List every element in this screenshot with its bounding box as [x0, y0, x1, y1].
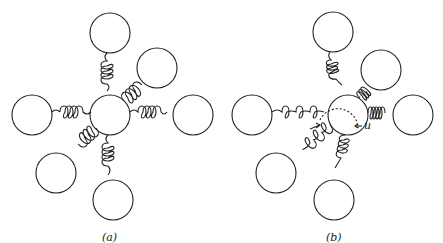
atom-left — [12, 95, 52, 135]
spring-right-compressed — [368, 107, 385, 119]
panel-b-label: (b) — [326, 231, 342, 243]
displacement-label: u — [364, 119, 371, 132]
panel-b — [232, 12, 433, 220]
atom-top-right — [361, 50, 401, 90]
spring-bottom-left-stretched — [298, 120, 335, 155]
atom-top — [90, 13, 130, 53]
spring-left-stretched — [272, 106, 324, 118]
spring-right — [130, 106, 167, 118]
atom-bottom-left — [36, 153, 76, 193]
central-atom-displaced — [328, 95, 368, 135]
panel-a — [12, 13, 213, 220]
atom-right — [393, 95, 433, 135]
spring-bottom-left — [74, 123, 101, 149]
atom-top — [313, 12, 353, 52]
atom-left — [232, 95, 272, 135]
atom-bottom-left — [256, 153, 296, 193]
spring-bottom-bent — [335, 135, 349, 168]
spring-left — [52, 106, 91, 118]
spring-top-right-compressed — [356, 86, 372, 102]
panel-a-label: (a) — [102, 231, 117, 243]
spring-top-bent — [326, 52, 342, 85]
spring-lattice-diagram: u (a) (b) — [0, 0, 443, 243]
spring-bottom — [102, 135, 114, 175]
spring-top — [101, 53, 113, 91]
atom-top-right — [137, 48, 177, 88]
atom-bottom — [314, 180, 354, 220]
atom-right — [173, 95, 213, 135]
spring-top-right — [119, 80, 146, 106]
atom-bottom — [93, 180, 133, 220]
